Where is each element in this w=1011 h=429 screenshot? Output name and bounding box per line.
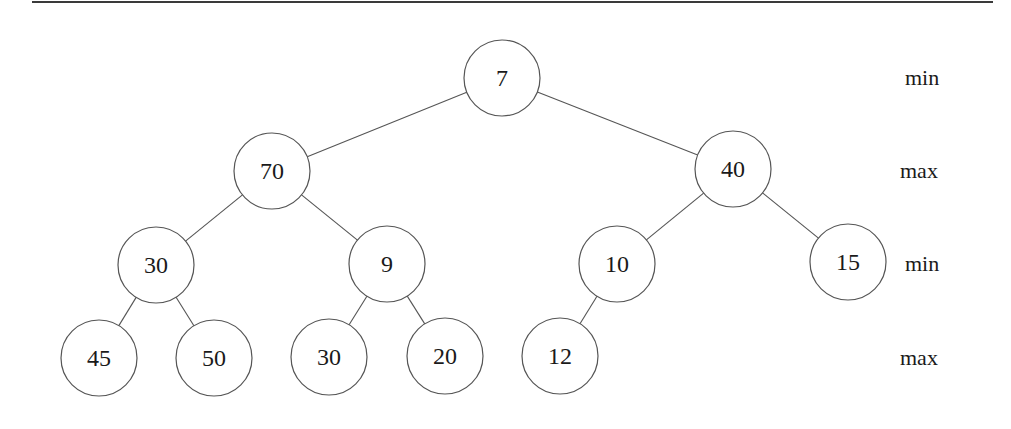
nodes: 7704030910154550302012 bbox=[61, 40, 886, 396]
node-value: 10 bbox=[605, 251, 629, 277]
edge-40-10 bbox=[646, 193, 703, 240]
edge-70-30 bbox=[186, 195, 243, 241]
level-label-min: min bbox=[905, 251, 939, 276]
tree-node: 40 bbox=[695, 131, 771, 207]
node-value: 45 bbox=[87, 345, 111, 371]
tree-node: 15 bbox=[810, 224, 886, 300]
edge-40-15 bbox=[763, 193, 819, 238]
tree-node: 70 bbox=[234, 133, 310, 209]
tree-node: 12 bbox=[522, 318, 598, 394]
edge-70-9 bbox=[302, 195, 358, 240]
tree-node: 45 bbox=[61, 320, 137, 396]
edges bbox=[119, 92, 819, 326]
tree-node: 30 bbox=[118, 227, 194, 303]
node-value: 70 bbox=[260, 158, 284, 184]
level-label-max: max bbox=[900, 158, 938, 183]
edge-7-40 bbox=[537, 92, 697, 155]
tree-node: 50 bbox=[176, 320, 252, 396]
edge-7-70 bbox=[307, 92, 467, 157]
tree-node: 7 bbox=[464, 40, 540, 116]
edge-9-20 bbox=[407, 296, 424, 324]
node-value: 30 bbox=[144, 252, 168, 278]
level-label-max: max bbox=[900, 345, 938, 370]
edge-9-30 bbox=[349, 296, 367, 325]
node-value: 40 bbox=[721, 156, 745, 182]
node-value: 9 bbox=[381, 251, 393, 277]
level-label-min: min bbox=[905, 65, 939, 90]
level-labels: minmaxminmax bbox=[900, 65, 939, 370]
node-value: 30 bbox=[317, 344, 341, 370]
node-value: 15 bbox=[836, 249, 860, 275]
tree-node: 30 bbox=[291, 319, 367, 395]
node-value: 7 bbox=[496, 65, 508, 91]
edge-10-12 bbox=[580, 296, 597, 323]
tree-node: 9 bbox=[349, 226, 425, 302]
node-value: 12 bbox=[548, 343, 572, 369]
node-value: 50 bbox=[202, 345, 226, 371]
node-value: 20 bbox=[433, 343, 457, 369]
tree-node: 20 bbox=[407, 318, 483, 394]
min-max-heap-diagram: 7704030910154550302012 minmaxminmax bbox=[0, 0, 1011, 429]
edge-30-50 bbox=[176, 297, 194, 326]
tree-node: 10 bbox=[579, 226, 655, 302]
edge-30-45 bbox=[119, 297, 136, 325]
